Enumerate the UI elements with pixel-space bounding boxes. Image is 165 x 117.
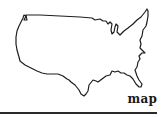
map-caption-label: map [128,92,157,106]
horizontal-rule [0,112,157,114]
map-figure: map [0,0,165,117]
us-outline-path [16,9,148,96]
